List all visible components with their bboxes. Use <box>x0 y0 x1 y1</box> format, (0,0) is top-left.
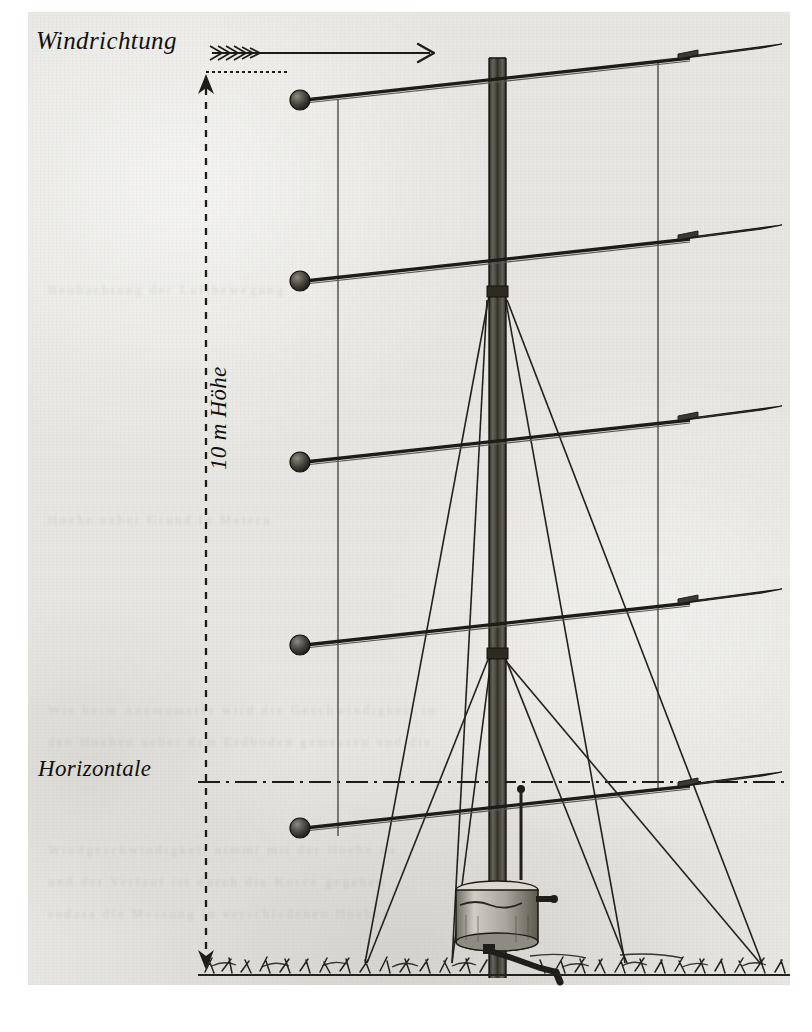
vane-arm <box>290 225 782 291</box>
illustration-layer <box>0 0 812 1032</box>
guy-wires <box>365 296 762 963</box>
recording-drum <box>456 881 558 951</box>
figure-page: Wie beim Anemometer wird die Geschwindig… <box>0 0 812 1032</box>
vane-arm <box>290 589 782 655</box>
wind-direction-arrow <box>210 44 434 62</box>
mast <box>487 58 508 978</box>
height-dimension-line <box>198 72 290 970</box>
linkage-rod <box>517 785 525 880</box>
vane-arm <box>290 406 782 472</box>
label-wind-direction: Windrichtung <box>36 27 177 55</box>
label-horizontal: Horizontale <box>38 756 151 782</box>
label-height: 10 m Höhe <box>206 366 232 470</box>
